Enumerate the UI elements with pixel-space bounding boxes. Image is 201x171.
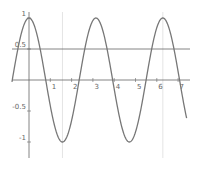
x-tick-label: 1 — [52, 83, 56, 91]
x-tick-label: 3 — [94, 83, 98, 91]
x-tick-label: 5 — [137, 83, 141, 91]
y-tick-label: 1 — [22, 10, 26, 18]
cosine-plot: 1234567 10.5-0.5-1 — [0, 0, 201, 171]
y-tick-label: 0.5 — [15, 41, 26, 49]
x-tick-label: 6 — [158, 83, 163, 91]
x-tick-label: 4 — [116, 83, 121, 91]
y-tick-label: -0.5 — [12, 103, 26, 111]
y-tick-label: -1 — [19, 134, 26, 142]
